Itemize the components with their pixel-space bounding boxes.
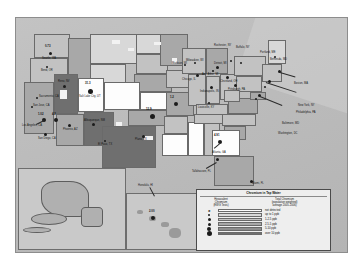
city-dot-missouri[interactable] (174, 102, 178, 106)
hawaii-island-maui (161, 222, 169, 227)
city-label-philadelphia: Philadelphia, PA (296, 111, 316, 114)
alaska-peninsula (31, 213, 67, 225)
alaska-inset (18, 168, 126, 250)
legend-marker-2_5-5ppb (200, 223, 218, 226)
city-dot-milwaukee[interactable] (194, 62, 196, 64)
city-dot-indianapolis[interactable] (210, 86, 213, 89)
city-label-buffalo: Buffalo, NY (236, 46, 250, 49)
city-dot-pittsburgh[interactable] (234, 84, 237, 87)
city-value-seattle: 0.73 (45, 45, 50, 48)
city-dot-louisville[interactable] (208, 102, 210, 104)
city-dot-phoenix[interactable] (68, 124, 71, 127)
legend-header-hexavalent-line3: (EWG Tests) (200, 204, 242, 207)
hawaii-inset: 2.00 (126, 193, 204, 250)
legend-swatch-over-10ppb (218, 232, 262, 236)
city-label-detroit: Detroit, MI (214, 62, 227, 65)
city-label-madison: Madison, WI (172, 62, 187, 65)
state-mi (206, 48, 228, 74)
legend-swatch-up-to-1ppb (218, 213, 262, 217)
city-value-honolulu: 2.00 (149, 210, 154, 213)
city-label-indianapolis: Indianapolis, IN (200, 90, 219, 93)
city-label-plano: Plano, TX (135, 138, 147, 141)
legend-marker-up-to-1ppb (200, 214, 218, 216)
city-label-miami: Miami, FL (252, 182, 264, 185)
map-page: 0.73 Seattle, WA Bend, OR Reno, NV 31.3 … (0, 0, 360, 268)
hawaii-island-kauai (137, 210, 143, 214)
legend-swatch-2_5-5ppb (218, 222, 262, 226)
legend-label-5-10ppb: 5-10 ppb (262, 227, 327, 230)
legend-swatch-1-2_5ppb (218, 218, 262, 222)
city-dot-rochester[interactable] (230, 60, 232, 62)
city-label-phoenix: Phoenix, AZ (63, 128, 78, 131)
city-label-portland-me: Portland, ME (260, 51, 276, 54)
city-label-seattle: Seattle, WA (42, 57, 56, 60)
city-dot-cleveland[interactable] (226, 76, 229, 79)
city-dot-ann-arbor[interactable] (212, 70, 214, 72)
legend-marker-1-2_5ppb (200, 218, 218, 221)
scan-patch (112, 40, 120, 44)
legend-row: over 10 ppb (200, 231, 327, 236)
city-label-ann-arbor: Ann Arbor, MI (202, 73, 218, 76)
city-dot-el-paso[interactable] (104, 140, 106, 142)
city-dot-chicago[interactable] (196, 74, 199, 77)
legend-title: Chromium in Tap Water (200, 192, 327, 197)
city-value-salt-lake-city: 31.3 (85, 82, 90, 85)
city-dot-philadelphia[interactable] (264, 86, 266, 88)
legend-header-total: Total Chromium (population weighted) ave… (242, 198, 327, 208)
legend-swatch-not-detected (218, 209, 262, 213)
city-label-bethesda: Bethesda, MD (270, 58, 287, 61)
city-dot-bend[interactable] (46, 66, 48, 68)
city-dot-buffalo[interactable] (240, 62, 242, 64)
scan-patch (128, 48, 134, 51)
city-dot-washington-dc[interactable] (255, 98, 257, 100)
legend-column-headers: Hexavalent Chromium (EWG Tests) Total Ch… (200, 198, 327, 208)
city-dot-detroit[interactable] (216, 66, 219, 69)
state-fl (214, 156, 254, 186)
city-label-salt-lake-city: Salt Lake City, UT (79, 95, 101, 98)
legend-header-total-line3: average 2005-2006) (242, 204, 327, 207)
legend-marker-over-10ppb (200, 231, 218, 236)
state-wa (34, 34, 70, 58)
city-dot-salt-lake-city[interactable] (88, 89, 93, 94)
city-label-sacramento: Sacramento, CA (39, 95, 59, 98)
legend-swatch-5-10ppb (218, 227, 262, 231)
city-label-tallahassee: Tallahassee, FL (192, 170, 211, 173)
city-value-missouri: 1.2 (170, 96, 174, 99)
city-dot-san-diego[interactable] (44, 133, 47, 136)
city-label-rochester: Rochester, NY (214, 44, 231, 47)
city-label-pittsburgh: Pittsburgh, PA (228, 88, 245, 91)
state-nc (222, 114, 256, 126)
city-label-reno: Reno, NV (58, 80, 70, 83)
city-label-chicago: Chicago, IL (182, 78, 196, 81)
city-label-bend: Bend, OR (41, 69, 53, 72)
city-label-louisville: Louisville, KY (198, 106, 214, 109)
city-label-honolulu: Honolulu, HI (138, 184, 153, 187)
state-tx (102, 126, 156, 168)
city-dot-reno[interactable] (63, 85, 66, 88)
city-dot-seattle[interactable] (49, 52, 52, 55)
city-label-washington-dc: Washington, DC (278, 132, 298, 135)
legend-marker-not-detected: ✖ (200, 209, 218, 213)
map-legend: Chromium in Tap Water Hexavalent Chromiu… (196, 189, 331, 251)
city-value-riverside: 4.2 (52, 113, 56, 116)
city-dot-sacramento[interactable] (36, 97, 38, 99)
scan-patch (60, 90, 67, 99)
city-value-atlanta: 4.91 (214, 134, 219, 137)
state-ar (164, 116, 188, 134)
state-newengland (262, 64, 282, 82)
city-label-san-diego: San Diego, CA (38, 137, 56, 140)
alaska-panhandle (81, 207, 103, 227)
state-co (104, 82, 140, 110)
state-wv (224, 90, 240, 102)
city-dot-albuquerque[interactable] (92, 123, 95, 126)
city-label-cleveland: Cleveland, OH (220, 80, 238, 83)
state-la (162, 134, 188, 156)
city-dot-tallahassee[interactable] (216, 158, 219, 161)
legend-label-1-2_5ppb: 1-2.5 ppb (262, 218, 327, 221)
city-dot-norman[interactable] (150, 114, 155, 119)
city-dot-honolulu[interactable] (151, 216, 155, 220)
city-dot-riverside[interactable] (54, 118, 58, 122)
city-label-milwaukee: Milwaukee, WI (186, 59, 204, 62)
us-chromium-map: 0.73 Seattle, WA Bend, OR Reno, NV 31.3 … (15, 17, 348, 253)
city-label-el-paso: El Paso, TX (98, 143, 112, 146)
